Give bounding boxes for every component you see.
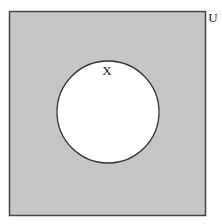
set-x-label: X <box>102 63 112 78</box>
venn-svg: X U <box>0 0 222 224</box>
venn-diagram: X U <box>0 0 222 224</box>
universe-label: U <box>208 10 218 25</box>
